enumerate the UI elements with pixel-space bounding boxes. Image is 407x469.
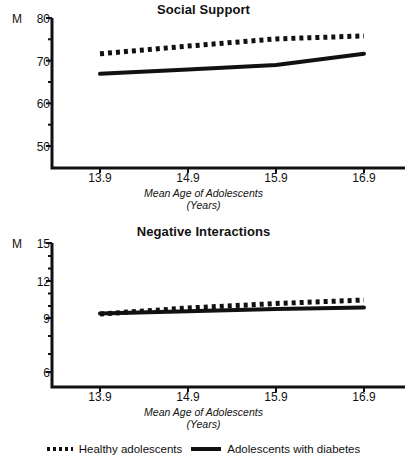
x-tick-label-16-9: 16.9 <box>341 390 387 404</box>
x-tick-label-14-9: 14.9 <box>165 390 211 404</box>
x-axis-label-negative-interactions: Mean Age of Adolescents <box>0 406 407 418</box>
dotted-line-key-icon <box>47 447 73 451</box>
legend-label-adolescents-with-diabetes: Adolescents with diabetes <box>227 443 360 455</box>
x-tick-label-14-9: 14.9 <box>165 171 211 185</box>
figure-container: Social Support M 80 70 60 50 <box>0 0 407 469</box>
x-tick-label-13-9: 13.9 <box>77 171 123 185</box>
x-tick-label-15-9: 15.9 <box>253 171 299 185</box>
plot-area-negative-interactions <box>0 222 407 402</box>
x-tick-label-13-9: 13.9 <box>77 390 123 404</box>
x-tick-label-16-9: 16.9 <box>341 171 387 185</box>
figure-legend: Healthy adolescents Adolescents with dia… <box>0 443 407 455</box>
x-tick-label-15-9: 15.9 <box>253 390 299 404</box>
series-line-healthy-adolescents-social-support <box>100 36 364 54</box>
x-axis-unit-negative-interactions: (Years) <box>0 418 407 430</box>
chart-panel-social-support: Social Support M 80 70 60 50 <box>0 0 407 215</box>
legend-entry-adolescents-with-diabetes: Adolescents with diabetes <box>191 443 360 455</box>
solid-line-key-icon <box>191 447 221 451</box>
x-axis-label-social-support: Mean Age of Adolescents <box>0 187 407 199</box>
chart-panel-negative-interactions: Negative Interactions M 15 12 9 6 <box>0 222 407 422</box>
series-line-adolescents-with-diabetes-negative-interactions <box>100 308 364 314</box>
legend-label-healthy-adolescents: Healthy adolescents <box>79 443 183 455</box>
plot-area-social-support <box>0 0 407 180</box>
x-axis-unit-social-support: (Years) <box>0 199 407 211</box>
series-line-adolescents-with-diabetes-social-support <box>100 54 364 74</box>
legend-entry-healthy-adolescents: Healthy adolescents <box>47 443 183 455</box>
